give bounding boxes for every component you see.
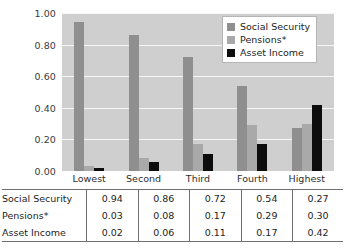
legend-label: Asset Income	[240, 47, 304, 58]
table-cell: 0.29	[241, 207, 293, 224]
bar	[237, 86, 247, 171]
y-axis-tick-label: 1.00	[8, 8, 56, 19]
x-axis-labels: LowestSecondThirdFourthHighest	[62, 171, 334, 186]
bar	[149, 162, 159, 171]
y-axis: 1.000.800.600.400.200.00	[0, 0, 62, 186]
legend-item: Social Security	[227, 20, 310, 33]
bar	[139, 158, 149, 171]
table-row-label: Asset Income	[2, 224, 87, 241]
table-row-label: Pensions*	[2, 207, 87, 224]
x-axis-label: Lowest	[63, 171, 115, 186]
table-row: Pensions*0.030.080.170.290.30	[2, 207, 343, 224]
x-axis-label: Second	[118, 171, 170, 186]
table-cell: 0.86	[138, 190, 190, 207]
table-cell: 0.94	[87, 190, 139, 207]
table-row-label: Social Security	[2, 190, 87, 207]
legend-label: Social Security	[240, 21, 310, 32]
bar-group	[63, 13, 115, 171]
bar	[247, 125, 257, 171]
bar	[302, 124, 312, 171]
legend-label: Pensions*	[240, 34, 286, 45]
bar	[129, 35, 139, 171]
y-axis-tick-label: 0.40	[8, 102, 56, 113]
table-cell: 0.02	[87, 224, 139, 241]
table-row: Asset Income0.020.060.110.170.42	[2, 224, 343, 241]
table-cell: 0.06	[138, 224, 190, 241]
table-row: Social Security0.940.860.720.540.27	[2, 190, 343, 207]
y-axis-tick-label: 0.60	[8, 71, 56, 82]
x-axis-label: Third	[172, 171, 224, 186]
bar-group	[118, 13, 170, 171]
y-axis-tick-label: 0.00	[8, 166, 56, 177]
table-cell: 0.03	[87, 207, 139, 224]
table-cell: 0.17	[241, 224, 293, 241]
legend-item: Asset Income	[227, 46, 310, 59]
legend-item: Pensions*	[227, 33, 310, 46]
bar	[292, 128, 302, 171]
table-cell: 0.72	[190, 190, 242, 207]
y-axis-tick-label: 0.20	[8, 134, 56, 145]
x-axis-label: Highest	[281, 171, 333, 186]
chart-region: 1.000.800.600.400.200.00 LowestSecondThi…	[0, 0, 345, 186]
table-cell: 0.30	[293, 207, 343, 224]
bar	[257, 144, 267, 171]
bar	[193, 144, 203, 171]
data-table: Social Security0.940.860.720.540.27Pensi…	[2, 189, 343, 242]
bar	[312, 105, 322, 171]
x-axis-label: Fourth	[227, 171, 279, 186]
table-cell: 0.42	[293, 224, 343, 241]
y-axis-tick-label: 0.80	[8, 39, 56, 50]
table-cell: 0.54	[241, 190, 293, 207]
figure-grouped-bar-chart-with-table: 1.000.800.600.400.200.00 LowestSecondThi…	[0, 0, 345, 249]
legend: Social SecurityPensions*Asset Income	[222, 16, 317, 63]
data-table-grid: Social Security0.940.860.720.540.27Pensi…	[2, 190, 343, 241]
legend-swatch-icon	[227, 36, 235, 44]
table-body: Social Security0.940.860.720.540.27Pensi…	[2, 190, 343, 241]
bar	[203, 154, 213, 171]
legend-swatch-icon	[227, 23, 235, 31]
legend-swatch-icon	[227, 49, 235, 57]
bar	[183, 57, 193, 171]
table-cell: 0.27	[293, 190, 343, 207]
table-cell: 0.08	[138, 207, 190, 224]
bar-group	[172, 13, 224, 171]
table-cell: 0.17	[190, 207, 242, 224]
bar	[74, 22, 84, 171]
table-cell: 0.11	[190, 224, 242, 241]
